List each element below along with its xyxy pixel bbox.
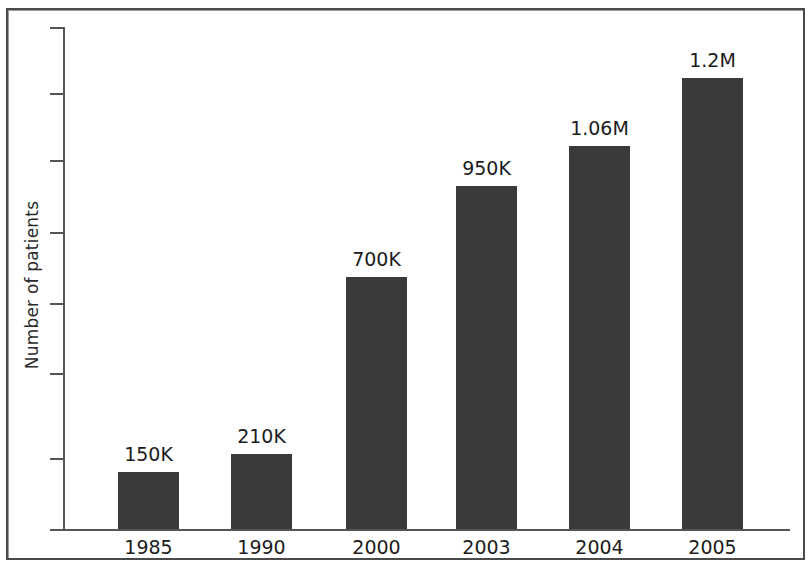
x-axis-category-label: 2003 [431, 536, 542, 558]
bar-value-label: 950K [431, 157, 542, 179]
bar-value-label: 700K [321, 248, 432, 270]
bar [231, 454, 292, 529]
y-axis-tick [50, 529, 64, 531]
bar-value-label: 1.2M [657, 49, 768, 71]
bar [118, 472, 179, 529]
bar [456, 186, 517, 529]
bar-value-label: 1.06M [544, 117, 655, 139]
bar-chart-plot-area: Number of patients 150K1985210K1990700K2… [0, 0, 812, 569]
chart-screenshot: Number of patients 150K1985210K1990700K2… [0, 0, 812, 569]
y-axis-tick [50, 160, 64, 162]
x-axis-category-label: 1985 [93, 536, 204, 558]
y-axis-tick [50, 303, 64, 305]
bar [346, 277, 407, 529]
y-axis-tick [50, 27, 64, 29]
bar [569, 146, 630, 529]
x-axis-category-label: 2005 [657, 536, 768, 558]
y-axis-tick [50, 232, 64, 234]
y-axis-tick [50, 373, 64, 375]
x-axis-category-label: 1990 [206, 536, 317, 558]
bar [682, 78, 743, 529]
x-axis-category-label: 2004 [544, 536, 655, 558]
x-axis-line [63, 529, 790, 531]
y-axis-line [63, 27, 65, 531]
y-axis-tick [50, 458, 64, 460]
y-axis-tick [50, 93, 64, 95]
y-axis-title: Number of patients [22, 185, 42, 385]
x-axis-category-label: 2000 [321, 536, 432, 558]
bar-value-label: 210K [206, 425, 317, 447]
bar-value-label: 150K [93, 443, 204, 465]
